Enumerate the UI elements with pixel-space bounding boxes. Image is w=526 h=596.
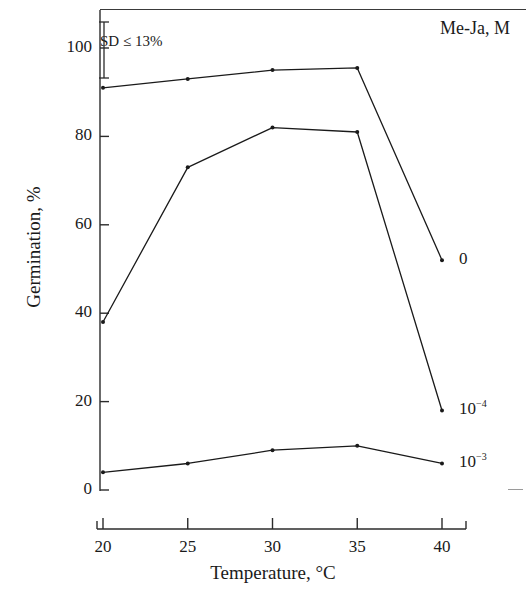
- series-point-0-20: [101, 86, 105, 90]
- series-line-0: [103, 68, 442, 260]
- series-point-10^-4-40: [440, 408, 444, 412]
- series-point-0-30: [271, 68, 275, 72]
- x-tick-label-30: 30: [251, 537, 295, 557]
- series-point-10^-3-20: [101, 470, 105, 474]
- series-point-10^-3-40: [440, 461, 444, 465]
- figure-panel: Me-Ja, M SD ≤ 13% 020406080100 202530354…: [0, 0, 526, 596]
- y-tick-label-100: 100: [46, 37, 92, 57]
- y-axis-title: Germination, %: [23, 147, 45, 347]
- series-point-0-40: [440, 258, 444, 262]
- series-point-10^-3-30: [271, 448, 275, 452]
- series-point-0-25: [186, 77, 190, 81]
- x-tick-label-35: 35: [335, 537, 379, 557]
- plot-canvas: [0, 0, 526, 596]
- series-point-10^-4-25: [186, 165, 190, 169]
- series-label-10^-3: 10−3: [459, 452, 487, 472]
- x-axis-title: Temperature, °C: [103, 562, 443, 584]
- x-tick-label-40: 40: [420, 537, 464, 557]
- series-point-0-35: [355, 66, 359, 70]
- x-tick-label-20: 20: [81, 537, 125, 557]
- series-label-exponent: −3: [476, 452, 487, 463]
- y-tick-label-40: 40: [46, 302, 92, 322]
- series-point-10^-4-35: [355, 130, 359, 134]
- series-point-10^-4-30: [271, 126, 275, 130]
- series-line-10^-4: [103, 128, 442, 411]
- series-label-exponent: −4: [476, 399, 487, 410]
- y-tick-label-80: 80: [46, 125, 92, 145]
- series-point-10^-4-20: [101, 320, 105, 324]
- series-label-0: 0: [459, 249, 468, 269]
- data-series-group: [101, 66, 444, 474]
- axes-group: [97, 10, 466, 529]
- x-tick-label-25: 25: [166, 537, 210, 557]
- series-label-10^-4: 10−4: [459, 399, 487, 419]
- y-tick-label-60: 60: [46, 214, 92, 234]
- series-point-10^-3-25: [186, 461, 190, 465]
- series-point-10^-3-35: [355, 444, 359, 448]
- y-tick-label-20: 20: [46, 391, 92, 411]
- y-tick-label-0: 0: [46, 479, 92, 499]
